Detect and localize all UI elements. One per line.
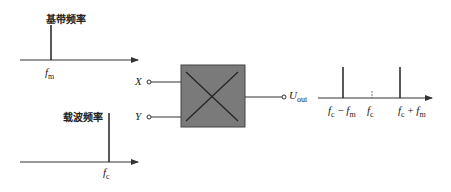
input-x-label: X [135,75,142,87]
carrier-title: 载波频率 [63,109,103,124]
lower-sideband-label: fc − fm [328,104,356,119]
input-y-label: Y [135,110,141,122]
upper-sideband-label: fc + fm [398,104,426,119]
baseband-spectrum [20,25,138,60]
diagram-graphics [0,0,451,192]
baseband-freq-label: fm [45,66,54,81]
modulation-diagram: 基带频率 fm 载波频率 fc X Y Uout fc − fm fc fc +… [0,0,451,192]
multiplier-block [147,65,286,127]
carrier-center-label: fc [367,104,374,119]
carrier-freq-label: fc [103,166,110,181]
output-spectrum [318,67,432,98]
output-label: Uout [289,89,307,104]
baseband-title: 基带频率 [46,11,86,26]
